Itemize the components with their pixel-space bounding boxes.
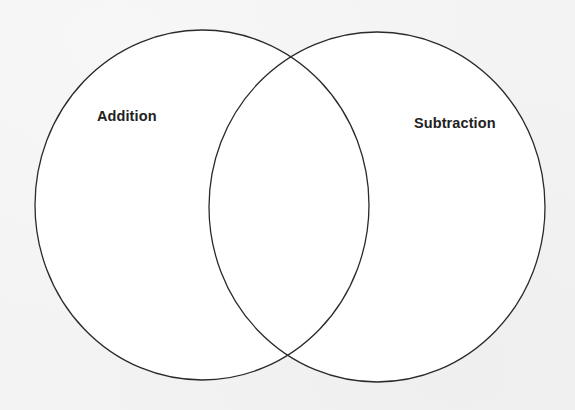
subtraction-circle-fill (209, 32, 545, 382)
subtraction-label: Subtraction (414, 116, 496, 131)
venn-diagram-canvas: Addition Subtraction (0, 0, 575, 410)
venn-diagram (0, 0, 575, 410)
addition-label: Addition (97, 109, 157, 124)
